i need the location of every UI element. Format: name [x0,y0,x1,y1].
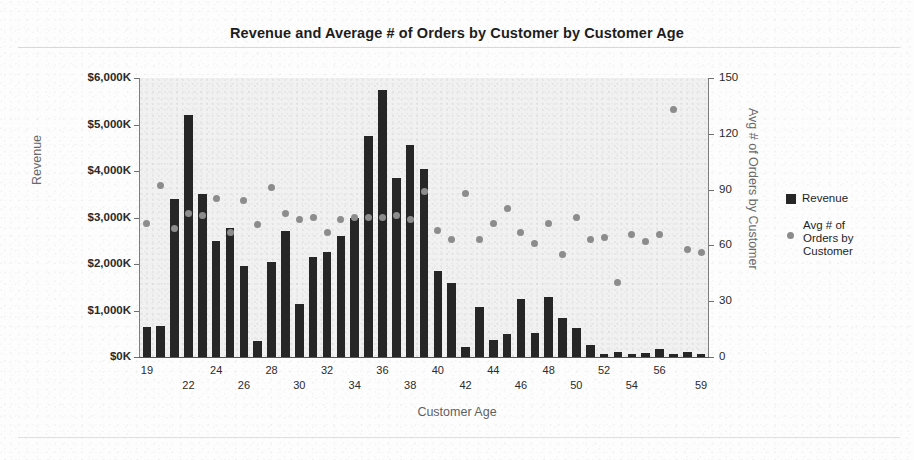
y-axis-right-tick-label: 60 [719,238,732,250]
bar-age-38 [406,145,415,357]
x-axis-tick-label-19: 19 [141,364,153,376]
x-axis-tick-label-54: 54 [626,379,638,391]
marker-age-39 [421,188,428,195]
plot-area [140,78,708,357]
marker-age-53 [614,279,621,286]
marker-age-57 [670,106,677,113]
x-axis-tick-label-56: 56 [653,364,665,376]
marker-age-41 [448,236,455,243]
y-axis-right-tick [709,301,714,302]
x-axis-tick-label-24: 24 [210,364,222,376]
y-axis-left-tick [134,357,139,358]
marker-age-37 [393,212,400,219]
x-axis-tick-label-32: 32 [321,364,333,376]
y-axis-left-tick-label: $0K [110,350,131,362]
marker-age-33 [337,216,344,223]
legend-label-line: Orders by [803,232,883,245]
y-axis-left-tick [134,171,139,172]
marker-age-38 [407,216,414,223]
bar-age-42 [461,347,470,357]
bar-age-40 [434,271,443,357]
marker-age-59 [698,249,705,256]
marker-age-25 [227,229,234,236]
page-rule-bottom [18,437,900,438]
y-axis-right-tick [709,134,714,135]
marker-age-46 [517,229,524,236]
marker-age-26 [240,197,247,204]
marker-age-19 [143,220,150,227]
x-axis-tick-label-28: 28 [265,364,277,376]
y-axis-left-tick [134,125,139,126]
x-axis-tick-label-59: 59 [695,379,707,391]
bar-age-24 [212,241,221,357]
y-axis-left-tick-label: $6,000K [88,71,131,83]
x-axis-line [139,357,709,358]
chart-title: Revenue and Average # of Orders by Custo… [0,25,914,41]
bar-age-32 [323,252,332,357]
y-axis-right-tick-label: 150 [719,71,738,83]
legend-item-revenue[interactable]: Revenue [786,192,906,205]
bar-age-31 [309,257,318,357]
bar-age-47 [531,333,540,357]
bar-age-41 [447,283,456,357]
y-axis-left-tick-label: $3,000K [88,211,131,223]
y-axis-right-tick [709,78,714,79]
x-axis-tick-label-50: 50 [570,379,582,391]
x-axis-tick-label-26: 26 [238,379,250,391]
marker-age-24 [213,195,220,202]
bar-age-33 [337,236,346,357]
y-axis-left-tick-label: $2,000K [88,257,131,269]
legend-dot-icon [787,232,794,239]
y-axis-right-line [708,78,709,358]
bar-age-56 [655,349,664,357]
legend-label-line: Avg # of [803,219,883,232]
marker-age-32 [324,229,331,236]
y-axis-left-line [139,78,140,358]
bar-age-43 [475,307,484,357]
x-axis-tick-label-34: 34 [349,379,361,391]
y-axis-left-title: Revenue [30,135,44,185]
y-axis-right-tick-label: 30 [719,294,732,306]
y-axis-right-title: Avg # of Orders by Customer [746,108,760,270]
y-axis-right-tick [709,190,714,191]
bar-age-30 [295,304,304,357]
bar-age-35 [364,136,373,357]
bar-age-25 [226,228,235,357]
bar-age-19 [143,327,152,357]
legend-item-label: Revenue [802,192,848,205]
bar-age-28 [267,262,276,357]
bar-age-36 [378,90,387,357]
marker-age-23 [199,212,206,219]
marker-age-20 [157,182,164,189]
x-axis-tick-label-40: 40 [432,364,444,376]
y-axis-right-tick-label: 0 [719,350,725,362]
y-axis-left-tick [134,78,139,79]
marker-age-30 [296,216,303,223]
bar-age-22 [184,115,193,357]
x-axis-title: Customer Age [0,405,914,419]
bar-age-34 [350,218,359,358]
marker-age-52 [601,234,608,241]
y-axis-left-tick [134,218,139,219]
legend-label-line: Customer [803,245,883,258]
scanned-page: Revenue and Average # of Orders by Custo… [0,0,914,460]
y-axis-right-tick [709,245,714,246]
bar-age-49 [558,318,567,357]
marker-age-45 [504,205,511,212]
bar-age-50 [572,328,581,357]
marker-age-29 [282,210,289,217]
marker-age-40 [434,227,441,234]
legend-item-avg-orders[interactable]: Avg # of Orders by Customer [786,219,906,258]
bar-age-20 [156,326,165,357]
marker-age-27 [254,221,261,228]
x-axis-tick-label-38: 38 [404,379,416,391]
bar-age-37 [392,178,401,357]
marker-age-56 [656,231,663,238]
marker-age-47 [531,240,538,247]
y-axis-left-tick [134,264,139,265]
marker-age-42 [462,190,469,197]
marker-age-51 [587,236,594,243]
page-rule-top [18,47,900,48]
y-axis-left-tick-label: $4,000K [88,164,131,176]
marker-age-43 [476,236,483,243]
